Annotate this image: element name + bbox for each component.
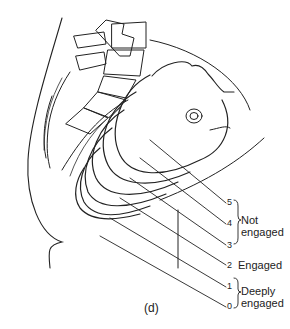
engagement-diagram: 5 4 3 2 1 0 Not engaged Engaged Deeply e… bbox=[0, 0, 290, 329]
anatomy-illustration bbox=[0, 0, 290, 329]
station-1: 1 bbox=[227, 281, 232, 291]
engaged-label: Engaged bbox=[238, 259, 282, 271]
station-5: 5 bbox=[227, 197, 232, 207]
not-engaged-label-line1: Not bbox=[241, 214, 258, 226]
station-2: 2 bbox=[227, 260, 232, 270]
not-engaged-label-line2: engaged bbox=[241, 226, 284, 238]
deeply-engaged-label-line1: Deeply bbox=[241, 285, 275, 297]
spine bbox=[66, 20, 146, 134]
fetal-head-outlines bbox=[76, 75, 228, 219]
station-lines bbox=[100, 140, 226, 307]
figure-caption: (d) bbox=[144, 301, 159, 315]
station-3: 3 bbox=[227, 240, 232, 250]
station-4: 4 bbox=[227, 218, 232, 228]
deeply-engaged-label-line2: engaged bbox=[241, 297, 284, 309]
station-0: 0 bbox=[227, 301, 232, 311]
